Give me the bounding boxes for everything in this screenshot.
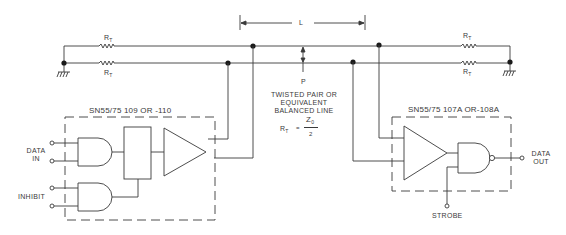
- strobe-terminal: [445, 204, 449, 208]
- formula-numerator: Z0: [306, 116, 314, 124]
- resistor-rt-right-bottom-icon: [461, 61, 476, 65]
- formula-denominator: 2: [309, 131, 313, 137]
- resistor-label-right-bottom: RT: [463, 68, 472, 75]
- formula-lhs: RT: [280, 125, 289, 132]
- inhibit-label: INHIBIT: [18, 193, 45, 200]
- data-out-label-2: OUT: [526, 158, 556, 165]
- receiver-package-outline: [392, 117, 511, 191]
- data-out-terminal: [520, 156, 524, 160]
- data-out-label-1: DATA: [526, 150, 556, 157]
- receiver-title: SN55/75 107A OR-108A: [408, 106, 499, 114]
- line-description-3: BALANCED LINE: [262, 107, 346, 114]
- resistor-label-right-top: RT: [463, 32, 472, 39]
- line-receiver-amplifier-icon: [404, 126, 447, 180]
- schematic-drawing: [0, 0, 566, 235]
- data-in-label-2: IN: [22, 155, 50, 162]
- resistor-label-left-top: RT: [104, 34, 113, 41]
- resistor-rt-right-top-icon: [461, 44, 476, 48]
- driver-title: SN55/75 109 OR -110: [89, 107, 171, 115]
- line-description-2: EQUIVALENT: [262, 99, 346, 106]
- resistor-rt-left-bottom-icon: [99, 61, 114, 65]
- line-driver-amplifier-icon: [164, 128, 206, 176]
- point-p-label: P: [301, 78, 306, 85]
- resistor-label-left-bottom: RT: [104, 69, 113, 76]
- line-description-1: TWISTED PAIR OR: [262, 91, 346, 98]
- inhibit-terminals: [50, 186, 78, 208]
- resistor-rt-left-top-icon: [99, 44, 114, 48]
- point-p-marker: [301, 47, 305, 72]
- driver-package-outline: [65, 117, 215, 220]
- circuit-diagram: L RT RT RT RT P TWISTED PAIR OR EQUIVALE…: [0, 0, 566, 235]
- control-block: [124, 127, 151, 179]
- and-gate-data-icon: [78, 138, 112, 166]
- data-in-terminals: [50, 141, 78, 163]
- length-label: L: [299, 19, 303, 26]
- and-gate-inhibit-icon: [78, 183, 112, 211]
- formula-equals: =: [296, 125, 300, 131]
- receiver-input-wires: [353, 45, 404, 161]
- ground-right-icon: [503, 63, 516, 76]
- data-in-label-1: DATA: [22, 147, 50, 154]
- nand-gate-output-icon: [458, 143, 495, 173]
- strobe-label: STROBE: [432, 212, 463, 219]
- formula-fraction-bar: [304, 127, 318, 128]
